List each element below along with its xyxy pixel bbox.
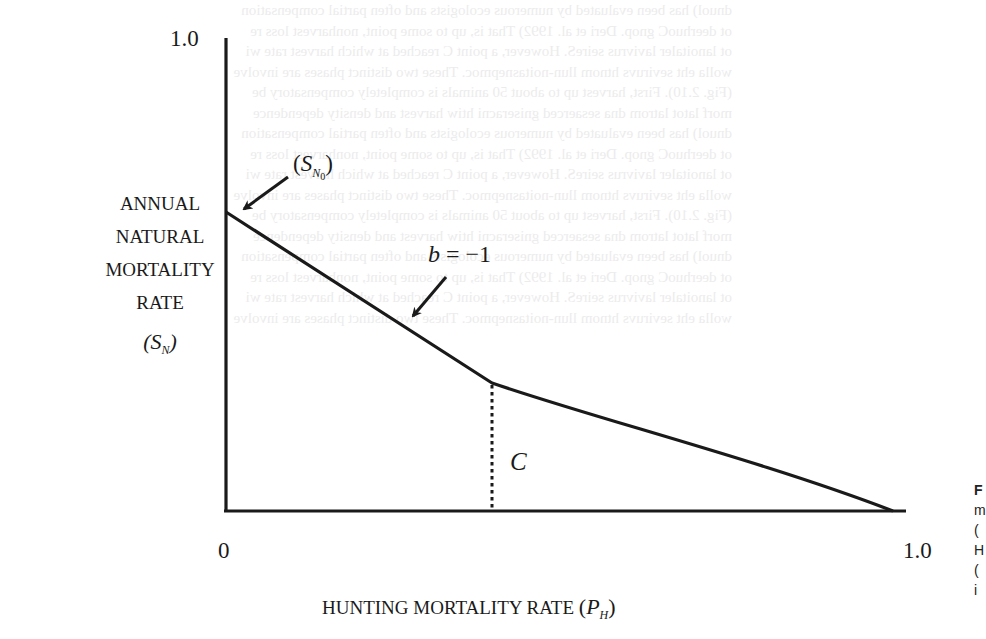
threshold-label: C (510, 448, 527, 476)
y-axis-label-line: MORTALITY (96, 253, 224, 286)
sn0-subsub: 0 (320, 171, 325, 182)
slope-var: b (428, 241, 440, 267)
x-axis-symbol: (PH) (579, 594, 616, 619)
y-symbol-sub: N (161, 343, 169, 357)
intercept-arrow (244, 177, 288, 209)
y-tick-1: 1.0 (170, 26, 199, 52)
caption-char: ( (974, 520, 986, 540)
y-axis-label: ANNUAL NATURAL MORTALITY RATE (SN) (96, 187, 224, 367)
intercept-annotation: (SN0) (293, 151, 333, 182)
sn0-sub: N (312, 166, 320, 180)
x-tick-1: 1.0 (903, 538, 932, 564)
caption-char: i (974, 580, 986, 600)
y-symbol-main: S (150, 329, 161, 354)
sn0-main: S (301, 151, 313, 176)
caption-char: m (974, 500, 986, 520)
y-axis-label-line: NATURAL (96, 220, 224, 253)
x-axis-label: HUNTING MORTALITY RATE (PH) (322, 594, 616, 623)
y-axis-label-line: RATE (96, 286, 224, 319)
slope-value: = −1 (440, 241, 491, 267)
x-symbol-main: P (586, 594, 599, 619)
slope-annotation: b = −1 (428, 241, 491, 268)
caption-char: ( (974, 560, 986, 580)
x-tick-0: 0 (218, 538, 230, 564)
caption-cutoff: F m ( H ( i (974, 480, 986, 600)
x-axis-label-text: HUNTING MORTALITY RATE (322, 597, 574, 618)
y-axis-label-line: ANNUAL (96, 187, 224, 220)
y-axis-symbol: (SN) (96, 325, 224, 367)
mortality-curve (226, 212, 893, 511)
x-symbol-sub: H (600, 608, 609, 622)
slope-arrow (413, 277, 446, 316)
caption-char: F (974, 480, 986, 500)
caption-char: H (974, 540, 986, 560)
